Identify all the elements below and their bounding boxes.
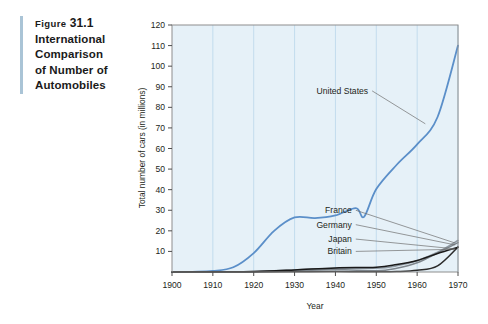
- x-tick-label: 1910: [203, 280, 222, 290]
- x-tick-label: 1950: [367, 280, 386, 290]
- line-chart: 102030405060708090100110120 190019101920…: [0, 0, 488, 324]
- x-tick-label: 1960: [408, 280, 427, 290]
- series-label-germany: Germany: [316, 220, 352, 230]
- x-tick-label: 1900: [162, 280, 181, 290]
- x-tick-label: 1970: [448, 280, 467, 290]
- y-tick-label: 50: [155, 164, 165, 174]
- y-tick-label: 110: [151, 41, 165, 51]
- y-tick-label: 100: [151, 61, 166, 71]
- series-label-france: France: [325, 205, 352, 215]
- y-tick-label: 10: [155, 246, 165, 256]
- y-tick-label: 30: [155, 205, 165, 215]
- y-tick-label: 60: [155, 144, 165, 154]
- chart-canvas: 102030405060708090100110120 190019101920…: [0, 0, 488, 324]
- plot-background-group: [172, 25, 458, 272]
- x-tick-label: 1930: [285, 280, 304, 290]
- series-label-britain: Britain: [327, 246, 352, 256]
- y-axis-ticks: 102030405060708090100110120: [151, 20, 172, 256]
- y-tick-label: 40: [155, 185, 165, 195]
- plot-background: [172, 25, 458, 272]
- series-label-united-states: United States: [317, 86, 369, 96]
- x-axis-title: Year: [307, 301, 324, 311]
- series-label-japan: Japan: [328, 234, 352, 244]
- y-axis-title: Total number of cars (in millions): [137, 88, 147, 209]
- y-tick-label: 120: [151, 20, 166, 30]
- y-tick-label: 80: [155, 102, 165, 112]
- x-tick-label: 1920: [244, 280, 263, 290]
- x-tick-label: 1940: [326, 280, 345, 290]
- x-axis-ticks: 19001910192019301940195019601970: [162, 272, 467, 290]
- y-tick-label: 20: [155, 226, 165, 236]
- y-tick-label: 90: [155, 82, 165, 92]
- y-tick-label: 70: [155, 123, 165, 133]
